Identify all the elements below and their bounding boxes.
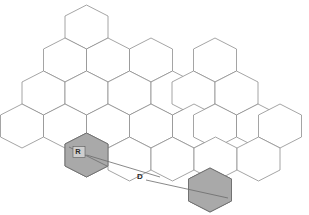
hexagon-grid-canvas: RD xyxy=(0,0,309,215)
label-radius: R xyxy=(75,147,81,156)
hexagon-cluster-diagram: RD xyxy=(0,0,309,215)
label-distance: D xyxy=(137,172,143,181)
